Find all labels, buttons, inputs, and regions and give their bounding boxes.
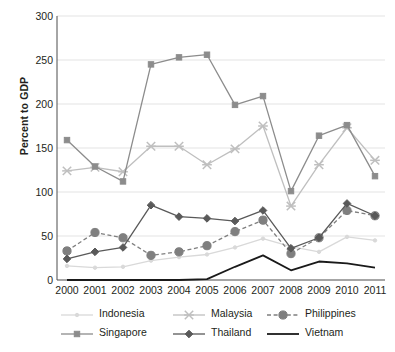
series-malaysia bbox=[62, 122, 380, 210]
data-point bbox=[231, 217, 239, 225]
data-point bbox=[120, 179, 125, 184]
line-chart: Percent to GDP 050100150200250300 200020… bbox=[0, 0, 395, 352]
data-point bbox=[184, 310, 194, 318]
legend-marker-philippines-icon bbox=[266, 307, 300, 319]
data-point bbox=[232, 102, 237, 107]
legend-label: Malaysia bbox=[211, 307, 252, 319]
data-point bbox=[147, 201, 155, 209]
legend-marker-indonesia-icon bbox=[60, 307, 94, 319]
data-point bbox=[202, 161, 212, 169]
legend-label: Indonesia bbox=[99, 307, 145, 319]
data-point bbox=[316, 133, 321, 138]
data-point bbox=[185, 330, 193, 338]
y-tick-label: 50 bbox=[23, 230, 53, 242]
legend-item-indonesia[interactable]: Indonesia bbox=[60, 307, 145, 319]
data-point bbox=[258, 122, 268, 130]
legend-label: Vietnam bbox=[305, 326, 343, 338]
legend-item-philippines[interactable]: Philippines bbox=[266, 307, 356, 319]
data-point bbox=[260, 93, 265, 98]
data-point bbox=[174, 142, 184, 150]
y-tick-label: 300 bbox=[23, 10, 53, 22]
plot-svg bbox=[57, 16, 385, 280]
legend-marker-thailand-icon bbox=[172, 326, 206, 338]
data-point bbox=[147, 251, 155, 259]
legend-item-thailand[interactable]: Thailand bbox=[172, 326, 251, 338]
data-point bbox=[231, 228, 239, 236]
legend-item-singapore[interactable]: Singapore bbox=[60, 326, 147, 338]
data-point bbox=[119, 244, 127, 252]
data-point bbox=[91, 248, 99, 256]
y-tick-label: 250 bbox=[23, 54, 53, 66]
data-point bbox=[92, 164, 97, 169]
legend-label: Thailand bbox=[211, 326, 251, 338]
data-point bbox=[233, 246, 236, 249]
data-point bbox=[286, 202, 296, 210]
x-axis-tick-labels: 2000200120022003200420052006200720082009… bbox=[57, 284, 385, 300]
data-point bbox=[370, 156, 380, 164]
data-point bbox=[288, 188, 293, 193]
data-point bbox=[146, 142, 156, 150]
data-point bbox=[203, 215, 211, 223]
data-point bbox=[317, 250, 320, 253]
data-point bbox=[345, 235, 348, 238]
data-point bbox=[63, 255, 71, 263]
data-point bbox=[176, 55, 181, 60]
data-point bbox=[63, 247, 71, 255]
data-point bbox=[148, 62, 153, 67]
chart-legend: IndonesiaMalaysiaPhilippinesSingaporeTha… bbox=[60, 305, 380, 343]
data-point bbox=[175, 248, 183, 256]
data-point bbox=[175, 213, 183, 221]
legend-row: SingaporeThailandVietnam bbox=[60, 324, 380, 339]
legend-marker-singapore-icon bbox=[60, 326, 94, 338]
data-point bbox=[74, 331, 79, 336]
y-tick-label: 100 bbox=[23, 186, 53, 198]
series-line bbox=[67, 237, 375, 268]
series-indonesia bbox=[65, 235, 376, 269]
data-point bbox=[93, 266, 96, 269]
legend-item-malaysia[interactable]: Malaysia bbox=[172, 307, 252, 319]
legend-item-vietnam[interactable]: Vietnam bbox=[266, 326, 343, 338]
data-point bbox=[279, 310, 287, 318]
legend-label: Philippines bbox=[305, 307, 356, 319]
data-point bbox=[230, 145, 240, 153]
data-point bbox=[204, 52, 209, 57]
legend-marker-vietnam-icon bbox=[266, 326, 300, 338]
plot-area bbox=[57, 16, 385, 280]
y-tick-label: 150 bbox=[23, 142, 53, 154]
x-tick-label: 2011 bbox=[355, 284, 395, 296]
data-point bbox=[65, 264, 68, 267]
data-point bbox=[75, 313, 78, 316]
data-point bbox=[119, 234, 127, 242]
data-point bbox=[121, 265, 124, 268]
data-point bbox=[261, 237, 264, 240]
data-point bbox=[64, 137, 69, 142]
data-point bbox=[344, 122, 349, 127]
series-line bbox=[67, 126, 375, 206]
data-point bbox=[373, 239, 376, 242]
legend-marker-malaysia-icon bbox=[172, 307, 206, 319]
data-point bbox=[203, 242, 211, 250]
data-point bbox=[205, 253, 208, 256]
data-point bbox=[91, 228, 99, 236]
data-point bbox=[62, 167, 72, 175]
legend-label: Singapore bbox=[99, 326, 147, 338]
series-thailand bbox=[63, 200, 379, 263]
data-point bbox=[259, 216, 267, 224]
y-tick-label: 200 bbox=[23, 98, 53, 110]
data-point bbox=[314, 161, 324, 169]
data-point bbox=[372, 173, 377, 178]
y-axis-tick-labels: 050100150200250300 bbox=[19, 16, 53, 280]
legend-row: IndonesiaMalaysiaPhilippines bbox=[60, 305, 380, 320]
series-singapore bbox=[64, 52, 377, 194]
